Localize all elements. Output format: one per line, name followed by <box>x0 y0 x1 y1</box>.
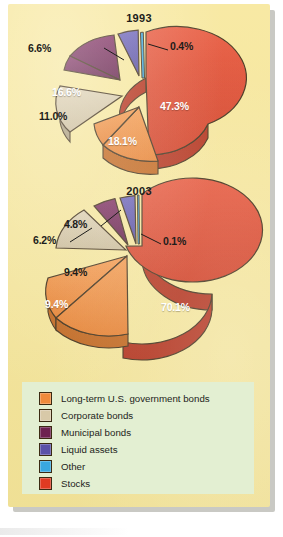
legend-swatch-icon-long-term-us-government-bonds <box>39 392 52 405</box>
pct-label-govt-1993: 18.1% <box>108 135 137 147</box>
legend-swatch-icon-municipal-bonds <box>39 426 52 439</box>
pct-label-municipal-1993: 16.6% <box>52 86 81 98</box>
legend-swatch-icon-liquid-assets <box>39 443 52 456</box>
legend-label-stocks: Stocks <box>61 478 90 489</box>
leader-lines-2003 <box>8 4 270 384</box>
legend-swatch-icon-stocks <box>39 477 52 490</box>
legend-swatch-icon-corporate-bonds <box>39 409 52 422</box>
pct-label-stocks-1993: 47.3% <box>160 100 189 112</box>
legend-label-corporate-bonds: Corporate bonds <box>61 410 133 421</box>
chart-legend: Long-term U.S. government bonds Corporat… <box>22 382 254 494</box>
pie-chart-figure: 1993 <box>0 0 283 537</box>
pct-label-liquid-1993: 6.6% <box>28 42 51 54</box>
legend-label-liquid-assets: Liquid assets <box>61 444 118 455</box>
legend-item-municipal-bonds: Municipal bonds <box>39 425 210 440</box>
legend-item-long-term-us-government-bonds: Long-term U.S. government bonds <box>39 391 210 406</box>
legend-item-list: Long-term U.S. government bonds Corporat… <box>39 391 210 491</box>
legend-label-long-term-us-government-bonds: Long-term U.S. government bonds <box>61 393 210 404</box>
legend-swatch-icon-other <box>39 460 52 473</box>
pct-label-liquid-2003: 4.8% <box>64 218 87 230</box>
pct-label-stocks-2003: 70.1% <box>161 301 190 313</box>
pct-label-corporate-1993: 11.0% <box>39 110 67 122</box>
figure-card: 1993 <box>8 4 270 507</box>
legend-label-municipal-bonds: Municipal bonds <box>61 427 131 438</box>
pct-label-corporate-2003: 9.4% <box>64 266 87 278</box>
pct-label-other-2003: 0.1% <box>163 235 186 247</box>
legend-item-liquid-assets: Liquid assets <box>39 442 210 457</box>
pct-label-govt-2003: 9.4% <box>45 298 68 310</box>
pct-label-municipal-2003: 6.2% <box>33 234 56 246</box>
legend-item-corporate-bonds: Corporate bonds <box>39 408 210 423</box>
pct-label-other-1993: 0.4% <box>170 40 193 52</box>
legend-item-other: Other <box>39 459 210 474</box>
legend-item-stocks: Stocks <box>39 476 210 491</box>
scan-artifact <box>0 528 130 535</box>
legend-label-other: Other <box>61 461 85 472</box>
